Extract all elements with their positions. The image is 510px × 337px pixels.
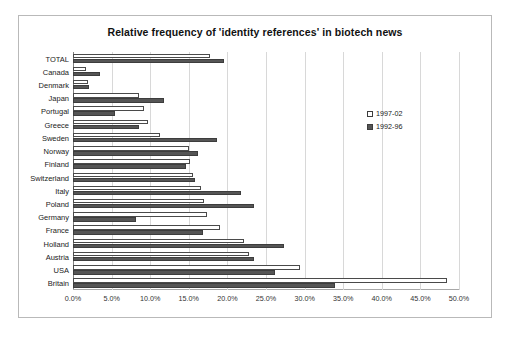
bar-row: Austria bbox=[73, 250, 459, 263]
category-label: TOTAL bbox=[46, 54, 69, 63]
x-tick-label: 50.0% bbox=[449, 294, 469, 303]
x-tick-label: 0.0% bbox=[65, 294, 81, 303]
x-tick-label: 40.0% bbox=[372, 294, 392, 303]
bar-row: France bbox=[73, 224, 459, 237]
bar-1997-02 bbox=[73, 159, 190, 163]
bar-1997-02 bbox=[73, 93, 139, 97]
bar-row: Denmark bbox=[73, 78, 459, 91]
bar-1997-02 bbox=[73, 225, 220, 229]
legend-item-new: 1997-02 bbox=[367, 109, 402, 118]
bar-row: Britain bbox=[73, 277, 459, 290]
bar-1997-02 bbox=[73, 186, 201, 190]
category-label: Greece bbox=[44, 120, 69, 129]
hollow-square-icon bbox=[367, 111, 373, 117]
bar-row: Canada bbox=[73, 65, 459, 78]
category-label: Canada bbox=[43, 67, 69, 76]
category-label: USA bbox=[54, 266, 69, 275]
category-label: Austria bbox=[46, 252, 69, 261]
bar-1992-96 bbox=[73, 59, 224, 63]
bar-1992-96 bbox=[73, 270, 275, 274]
x-tick-label: 5.0% bbox=[103, 294, 119, 303]
category-label: France bbox=[46, 226, 69, 235]
bar-1997-02 bbox=[73, 239, 244, 243]
bar-1992-96 bbox=[73, 217, 136, 221]
chart-legend: 1997-02 1992-96 bbox=[367, 109, 402, 135]
bar-1997-02 bbox=[73, 80, 88, 84]
bar-1992-96 bbox=[73, 98, 164, 102]
bar-1992-96 bbox=[73, 85, 89, 89]
category-label: Poland bbox=[46, 200, 69, 209]
bar-1997-02 bbox=[73, 106, 144, 110]
category-label: Germany bbox=[38, 213, 69, 222]
chart-screenshot: Relative frequency of 'identity referenc… bbox=[0, 0, 510, 337]
x-tick-label: 30.0% bbox=[294, 294, 314, 303]
category-label: Switzerland bbox=[30, 173, 69, 182]
bar-row: Italy bbox=[73, 184, 459, 197]
bar-row: Switzerland bbox=[73, 171, 459, 184]
bar-1992-96 bbox=[73, 283, 335, 287]
legend-label-new: 1997-02 bbox=[376, 109, 402, 118]
category-label: Holland bbox=[44, 239, 69, 248]
x-tick-label: 15.0% bbox=[179, 294, 199, 303]
category-label: Portugal bbox=[41, 107, 69, 116]
bar-1997-02 bbox=[73, 199, 204, 203]
chart-title: Relative frequency of 'identity referenc… bbox=[19, 26, 491, 38]
category-label: Britain bbox=[48, 279, 69, 288]
bar-1992-96 bbox=[73, 244, 284, 248]
bar-1997-02 bbox=[73, 146, 189, 150]
x-tick-label: 20.0% bbox=[217, 294, 237, 303]
category-label: Japan bbox=[49, 94, 69, 103]
gridline bbox=[459, 52, 460, 290]
bar-1992-96 bbox=[73, 151, 198, 155]
bar-row: Norway bbox=[73, 145, 459, 158]
bar-1997-02 bbox=[73, 67, 86, 71]
bar-1997-02 bbox=[73, 212, 207, 216]
bar-1992-96 bbox=[73, 125, 139, 129]
bar-1997-02 bbox=[73, 54, 210, 58]
category-label: Norway bbox=[44, 147, 69, 156]
x-tick-label: 35.0% bbox=[333, 294, 353, 303]
bar-1997-02 bbox=[73, 120, 148, 124]
bar-1992-96 bbox=[73, 257, 254, 261]
bar-row: Japan bbox=[73, 92, 459, 105]
bar-row: Holland bbox=[73, 237, 459, 250]
chart-frame: Relative frequency of 'identity referenc… bbox=[18, 15, 492, 318]
bar-1997-02 bbox=[73, 252, 249, 256]
category-label: Denmark bbox=[39, 81, 69, 90]
bar-row: Poland bbox=[73, 197, 459, 210]
bar-row: USA bbox=[73, 264, 459, 277]
bar-row: TOTAL bbox=[73, 52, 459, 65]
legend-item-old: 1992-96 bbox=[367, 122, 402, 131]
category-label: Sweden bbox=[42, 133, 69, 142]
legend-label-old: 1992-96 bbox=[376, 122, 402, 131]
bar-1992-96 bbox=[73, 111, 115, 115]
bar-row: Finland bbox=[73, 158, 459, 171]
x-tick-label: 10.0% bbox=[140, 294, 160, 303]
bar-1997-02 bbox=[73, 133, 160, 137]
x-tick-label: 45.0% bbox=[410, 294, 430, 303]
plot-area: TOTALCanadaDenmarkJapanPortugalGreeceSwe… bbox=[73, 52, 459, 290]
bar-1992-96 bbox=[73, 164, 186, 168]
bar-1992-96 bbox=[73, 191, 241, 195]
bar-1997-02 bbox=[73, 173, 193, 177]
filled-square-icon bbox=[367, 124, 373, 130]
bar-1992-96 bbox=[73, 230, 203, 234]
bar-row: Germany bbox=[73, 211, 459, 224]
bar-1992-96 bbox=[73, 178, 195, 182]
bar-1992-96 bbox=[73, 204, 254, 208]
bar-1992-96 bbox=[73, 72, 100, 76]
category-label: Finland bbox=[44, 160, 69, 169]
bar-1997-02 bbox=[73, 265, 300, 269]
bar-1992-96 bbox=[73, 138, 217, 142]
category-label: Italy bbox=[55, 186, 69, 195]
bar-1997-02 bbox=[73, 278, 447, 282]
x-tick-label: 25.0% bbox=[256, 294, 276, 303]
